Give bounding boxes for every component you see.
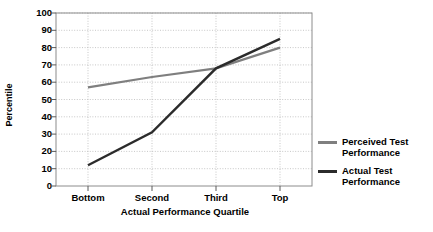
- chart-legend: Perceived Test PerformanceActual Test Pe…: [318, 136, 430, 194]
- legend-item: Actual Test Performance: [318, 165, 430, 187]
- x-tick-label: Third: [186, 192, 246, 203]
- x-tick-label: Top: [250, 192, 310, 203]
- legend-swatch: [318, 141, 337, 144]
- x-tick-label: Bottom: [58, 192, 118, 203]
- x-axis-title: Actual Performance Quartile: [56, 206, 314, 217]
- legend-swatch: [318, 170, 337, 173]
- series-line: [88, 48, 280, 88]
- x-tick-label: Second: [122, 192, 182, 203]
- legend-item: Perceived Test Performance: [318, 136, 430, 158]
- chart-container: Percentile 0102030405060708090100 Bottom…: [0, 0, 433, 232]
- legend-label: Actual Test Performance: [342, 165, 400, 187]
- legend-label: Perceived Test Performance: [342, 136, 408, 158]
